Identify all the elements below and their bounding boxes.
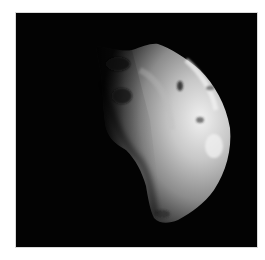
moon-photo [0, 0, 265, 260]
